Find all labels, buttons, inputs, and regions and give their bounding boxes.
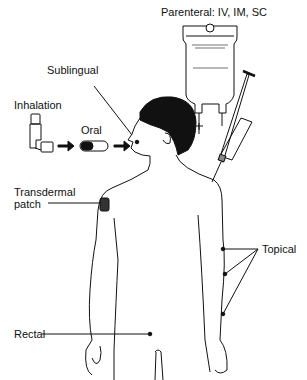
label-transdermal: Transdermal (14, 186, 75, 198)
inhaler-icon (30, 114, 53, 152)
arrow-icon (114, 141, 130, 151)
label-rectal: Rectal (14, 328, 45, 340)
label-oral: Oral (81, 124, 102, 136)
label-parenteral: Parenteral: IV, IM, SC (161, 6, 267, 18)
patch-icon (100, 198, 109, 211)
label-sublingual: Sublingual (47, 64, 98, 76)
label-transdermal-patch: patch (14, 198, 41, 210)
label-topical: Topical (262, 243, 296, 255)
pill-icon (80, 141, 108, 151)
label-inhalation: Inhalation (14, 99, 62, 111)
arrow-icon (58, 141, 74, 151)
person-figure (86, 97, 228, 380)
drug-routes-diagram: Parenteral: IV, IM, SC Sublingual Inhala… (0, 0, 307, 380)
